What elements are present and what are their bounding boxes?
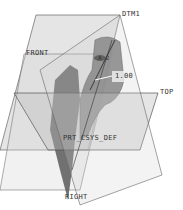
model-scene[interactable] [0,0,183,210]
dimension-value[interactable]: 1.00 [115,72,133,80]
label-top[interactable]: TOP [160,88,174,96]
label-right[interactable]: RIGHT [65,193,88,201]
3d-model-viewport[interactable]: DTM1 FRONT TOP RIGHT PRT_CSYS_DEF A_2 1.… [0,0,183,210]
label-dtm1[interactable]: DTM1 [122,10,140,18]
label-axis[interactable]: A_2 [98,54,110,62]
label-csys[interactable]: PRT_CSYS_DEF [63,134,117,142]
label-front[interactable]: FRONT [26,49,49,57]
